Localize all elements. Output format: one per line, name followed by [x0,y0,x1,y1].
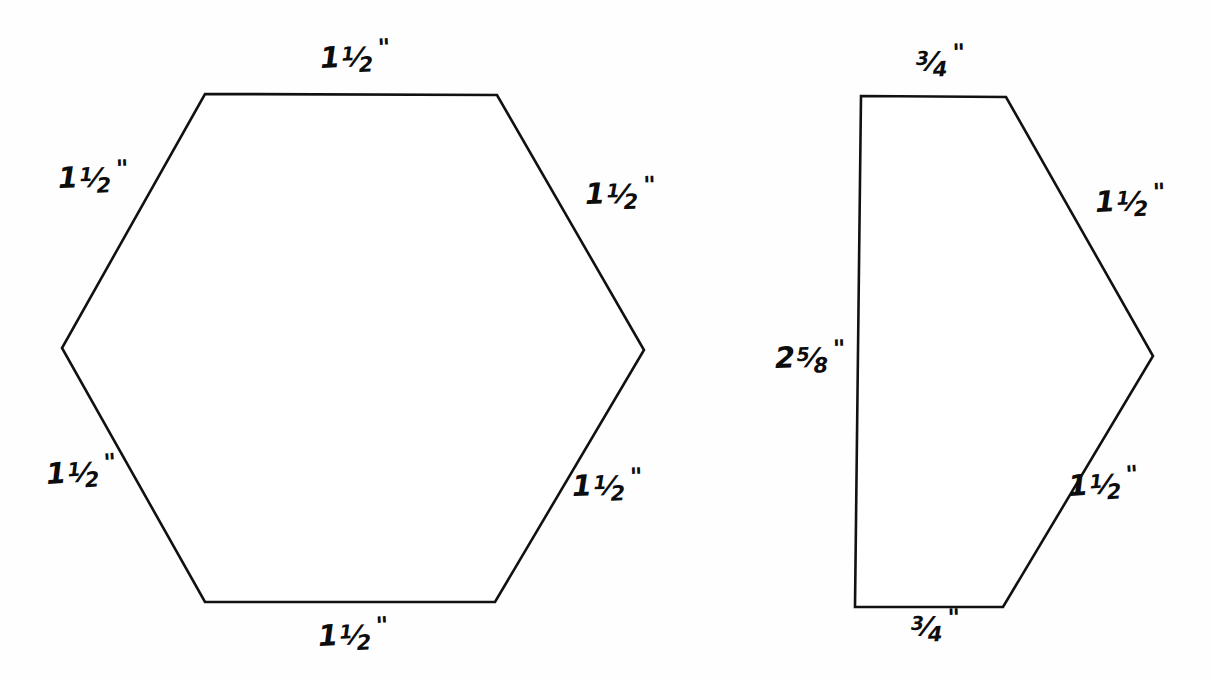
whole-number: 1 [317,618,340,653]
fraction: 1⁄2 [606,181,640,209]
dimension-label-hex-upper-right: 11⁄2" [585,178,653,209]
whole-number: 1 [571,468,594,503]
whole-number: 1 [319,40,342,75]
dimension-label-pent-left: 25⁄8" [774,342,842,373]
inch-mark: " [643,171,655,199]
dimension-label-hex-top: 11⁄2" [319,41,387,73]
inch-mark: " [630,463,642,491]
whole-number: 2 [774,340,797,375]
inch-mark: " [833,335,845,363]
dimension-label-hex-lower-left: 11⁄2" [45,455,114,489]
inch-mark: " [952,39,964,67]
fraction: 1⁄2 [67,458,103,487]
dimension-label-hex-lower-right: 11⁄2" [571,470,639,501]
fraction: 1⁄2 [1116,188,1151,216]
dimension-label-pent-lower-right: 11⁄2" [1067,467,1136,501]
inch-mark: " [947,604,959,632]
whole-number: 1 [1094,184,1117,219]
whole-number: 1 [57,160,80,195]
dimension-label-pent-upper-right: 11⁄2" [1094,185,1162,217]
fraction: 1⁄2 [79,164,114,192]
fraction: 1⁄2 [339,621,374,650]
inch-mark: " [1152,178,1165,206]
whole-number: 1 [1067,468,1091,503]
dimension-label-pent-top: 3⁄4" [915,46,962,76]
fraction: 1⁄2 [1089,470,1125,499]
inch-mark: " [1125,460,1138,489]
inch-mark: " [116,155,128,183]
dimension-label-pent-bottom: 3⁄4" [910,611,957,641]
fraction: 1⁄2 [341,43,376,72]
dimension-label-hex-upper-left: 11⁄2" [57,162,125,193]
fraction: 3⁄4 [911,613,945,641]
dimension-label-hex-bottom: 11⁄2" [317,619,385,651]
whole-number: 1 [585,176,608,211]
inch-mark: " [375,611,388,640]
inch-mark: " [377,33,390,62]
whole-number: 1 [45,456,69,491]
hexagon-outline [62,94,644,602]
inch-mark: " [103,448,116,477]
drawing-canvas: 11⁄2" 11⁄2" 11⁄2" 11⁄2" 11⁄2" 11⁄2" 3⁄4"… [0,0,1211,680]
fraction: 3⁄4 [916,48,950,76]
fraction: 1⁄2 [593,472,628,500]
pentagon-outline [855,96,1153,607]
fraction: 5⁄8 [796,344,831,372]
shapes-layer [0,0,1211,680]
